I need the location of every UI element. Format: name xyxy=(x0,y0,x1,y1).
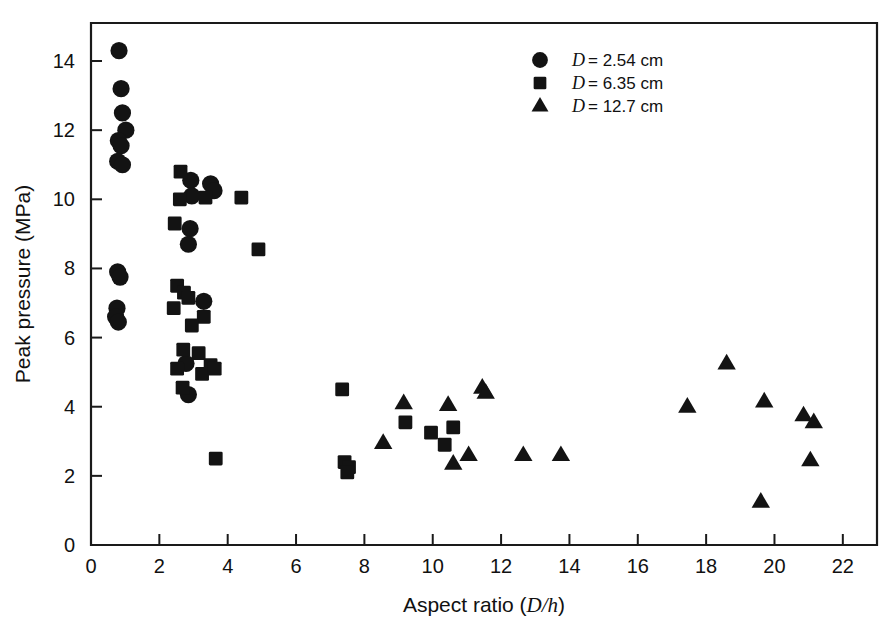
axis-titles: Aspect ratio (D/h)Peak pressure (MPa) xyxy=(11,185,565,617)
legend-label-1: D= 6.35 cm xyxy=(571,73,663,93)
data-point-square-1-23 xyxy=(340,466,354,480)
data-markers xyxy=(107,42,823,508)
data-point-circle-0-18 xyxy=(180,236,197,253)
data-point-triangle-2-7 xyxy=(514,445,532,461)
data-point-square-1-2 xyxy=(168,217,182,231)
data-point-triangle-2-11 xyxy=(752,492,770,508)
data-point-triangle-2-9 xyxy=(678,397,696,413)
x-tick-label-4: 4 xyxy=(222,555,233,577)
scatter-plot-figure: 0246810121416182022 02468101214 D= 2.54 … xyxy=(0,0,895,629)
data-point-circle-0-12 xyxy=(110,313,127,330)
y-tick-label-2: 2 xyxy=(64,465,75,487)
data-point-circle-legend-0 xyxy=(532,52,548,68)
x-tick-label-2: 2 xyxy=(154,555,165,577)
x-tick-label-6: 6 xyxy=(290,555,301,577)
data-point-circle-0-9 xyxy=(111,268,128,285)
plot-frame xyxy=(91,23,877,545)
series-square xyxy=(167,165,460,480)
plot-canvas: 0246810121416182022 02468101214 D= 2.54 … xyxy=(0,0,895,629)
data-point-circle-0-1 xyxy=(112,80,129,97)
y-axis-ticks xyxy=(91,61,102,545)
data-point-square-1-25 xyxy=(424,426,438,440)
data-point-square-1-5 xyxy=(252,243,266,257)
y-tick-label-0: 0 xyxy=(64,534,75,556)
x-axis-ticks xyxy=(91,534,843,545)
data-point-square-1-18 xyxy=(208,362,222,376)
data-point-square-1-13 xyxy=(192,346,206,360)
y-tick-label-8: 8 xyxy=(64,257,75,279)
data-point-circle-0-0 xyxy=(110,42,127,59)
data-point-square-legend-1 xyxy=(534,77,547,90)
data-point-square-1-19 xyxy=(209,452,223,466)
data-point-triangle-2-1 xyxy=(394,394,412,410)
data-point-triangle-legend-2 xyxy=(532,97,549,111)
data-point-square-1-3 xyxy=(199,191,213,205)
data-point-square-1-20 xyxy=(335,383,349,397)
x-tick-label-10: 10 xyxy=(422,555,444,577)
y-tick-label-10: 10 xyxy=(53,188,75,210)
data-point-circle-0-2 xyxy=(114,104,131,121)
data-point-triangle-2-4 xyxy=(459,445,477,461)
x-tick-label-20: 20 xyxy=(763,555,785,577)
data-point-triangle-2-12 xyxy=(755,392,773,408)
data-point-square-1-12 xyxy=(176,343,190,357)
x-tick-label-8: 8 xyxy=(359,555,370,577)
data-point-triangle-2-8 xyxy=(552,445,570,461)
x-axis-title: Aspect ratio (D/h) xyxy=(403,593,565,617)
legend: D= 2.54 cmD= 6.35 cmD= 12.7 cm xyxy=(532,50,664,116)
data-point-square-1-24 xyxy=(399,415,413,429)
data-point-circle-0-19 xyxy=(195,293,212,310)
x-axis-tick-labels: 0246810121416182022 xyxy=(85,555,854,577)
series-triangle xyxy=(374,354,823,508)
data-point-square-1-4 xyxy=(234,191,248,205)
y-axis-title: Peak pressure (MPa) xyxy=(11,185,34,383)
data-point-triangle-2-2 xyxy=(439,395,457,411)
data-point-square-1-8 xyxy=(167,301,181,315)
x-tick-label-18: 18 xyxy=(695,555,717,577)
data-point-circle-0-7 xyxy=(114,156,131,173)
data-point-triangle-2-10 xyxy=(717,354,735,370)
data-point-triangle-2-15 xyxy=(801,451,819,467)
data-point-square-1-16 xyxy=(170,362,184,376)
data-point-square-1-11 xyxy=(185,319,199,333)
data-point-triangle-2-13 xyxy=(794,406,812,422)
y-tick-label-4: 4 xyxy=(64,396,75,418)
data-point-square-1-15 xyxy=(195,367,209,381)
data-point-square-1-26 xyxy=(438,438,452,452)
x-tick-label-22: 22 xyxy=(832,555,854,577)
y-axis-tick-labels: 02468101214 xyxy=(53,50,75,556)
data-point-square-1-27 xyxy=(446,421,460,435)
y-tick-label-14: 14 xyxy=(53,50,75,72)
legend-label-2: D= 12.7 cm xyxy=(571,96,663,116)
data-point-circle-0-5 xyxy=(112,137,129,154)
data-point-square-1-9 xyxy=(181,291,195,305)
x-tick-label-0: 0 xyxy=(85,555,96,577)
data-point-square-1-1 xyxy=(173,192,187,206)
data-point-square-1-10 xyxy=(197,310,211,324)
y-tick-label-6: 6 xyxy=(64,327,75,349)
legend-label-0: D= 2.54 cm xyxy=(571,50,663,70)
x-tick-label-14: 14 xyxy=(558,555,580,577)
x-tick-label-12: 12 xyxy=(490,555,512,577)
data-point-square-1-0 xyxy=(174,165,188,179)
data-point-triangle-2-0 xyxy=(374,433,392,449)
data-point-triangle-2-3 xyxy=(444,454,462,470)
data-point-circle-0-17 xyxy=(182,220,199,237)
x-tick-label-16: 16 xyxy=(627,555,649,577)
data-point-square-1-17 xyxy=(176,381,190,395)
y-tick-label-12: 12 xyxy=(53,119,75,141)
